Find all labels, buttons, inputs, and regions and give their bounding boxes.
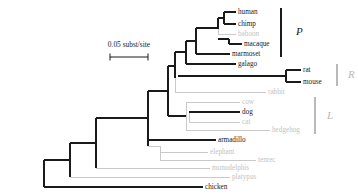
- phylogenetic-tree-figure: P R L human chimp baboon macaque marmose…: [0, 0, 358, 195]
- taxon-label-rabbit: rabbit: [268, 88, 285, 96]
- taxon-label-macaque: macaque: [244, 40, 270, 48]
- taxon-label-dog: dog: [242, 108, 253, 116]
- taxon-label-platypus: platypus: [232, 173, 257, 181]
- taxon-label-rat: rat: [303, 66, 311, 74]
- taxon-label-tenrec: tenrec: [258, 156, 276, 164]
- taxon-label-cow: cow: [242, 98, 255, 106]
- tree-canvas: P R L human chimp baboon macaque marmose…: [0, 0, 358, 195]
- taxon-label-human: human: [238, 8, 258, 16]
- taxon-label-galago: galago: [238, 60, 258, 68]
- taxon-label-mouse: mouse: [303, 78, 322, 86]
- taxon-label-monodelphis: monodelphis: [212, 164, 249, 172]
- clade-label-P: P: [295, 25, 303, 37]
- taxon-label-marmoset: marmoset: [232, 50, 260, 58]
- taxon-label-hedgehog: hedgehog: [272, 126, 300, 134]
- scale-bar-label: 0.05 subst/site: [108, 40, 151, 49]
- taxon-label-baboon: baboon: [238, 30, 260, 38]
- clade-label-L: L: [326, 109, 333, 121]
- taxon-label-cat: cat: [242, 118, 250, 126]
- taxon-label-chimp: chimp: [238, 20, 256, 28]
- scale-bar: 0.05 subst/site: [108, 40, 151, 61]
- clade-label-R: R: [347, 68, 355, 80]
- taxon-label-elephant: elephant: [210, 148, 234, 156]
- taxon-label-chicken: chicken: [205, 183, 228, 191]
- taxon-label-armadillo: armadillo: [218, 136, 246, 144]
